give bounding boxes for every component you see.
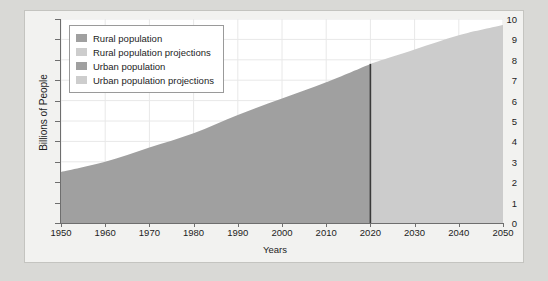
x-tick-label: 2010	[301, 227, 351, 238]
legend-item: Urban population projections	[76, 73, 214, 87]
legend-swatch-icon	[76, 48, 87, 56]
y-tick-mark	[55, 101, 60, 102]
x-tick-label: 2050	[478, 227, 528, 238]
legend-swatch-icon	[76, 76, 87, 84]
legend-item: Rural population	[76, 31, 214, 45]
legend-label: Urban population projections	[93, 75, 214, 86]
legend-item: Urban population	[76, 59, 214, 73]
x-axis-title: Years	[25, 244, 525, 255]
x-tick-label: 2000	[257, 227, 307, 238]
legend-label: Urban population	[93, 61, 165, 72]
x-tick-label: 1980	[169, 227, 219, 238]
area-series	[370, 25, 503, 223]
x-tick-mark	[194, 223, 195, 227]
legend-label: Rural population projections	[93, 47, 211, 58]
y-tick-mark	[55, 223, 60, 224]
x-tick-label: 2040	[434, 227, 484, 238]
y-tick-mark	[55, 141, 60, 142]
x-tick-mark	[105, 223, 106, 227]
y-tick-mark	[55, 19, 60, 20]
x-tick-mark	[503, 223, 504, 227]
y-tick-mark	[55, 182, 60, 183]
x-tick-mark	[282, 223, 283, 227]
chart-figure: Billions of People Years 012345678910 19…	[24, 10, 524, 263]
x-tick-mark	[149, 223, 150, 227]
y-tick-mark	[55, 39, 60, 40]
x-tick-label: 1990	[213, 227, 263, 238]
y-tick-mark	[55, 162, 60, 163]
x-tick-label: 1970	[124, 227, 174, 238]
x-tick-mark	[326, 223, 327, 227]
legend-item: Rural population projections	[76, 45, 214, 59]
x-tick-mark	[238, 223, 239, 227]
x-tick-label: 1950	[36, 227, 86, 238]
x-tick-mark	[370, 223, 371, 227]
y-tick-mark	[55, 60, 60, 61]
legend-swatch-icon	[76, 34, 87, 42]
x-tick-mark	[61, 223, 62, 227]
x-tick-mark	[459, 223, 460, 227]
y-tick-mark	[55, 121, 60, 122]
y-tick-mark	[55, 203, 60, 204]
y-axis-title: Billions of People	[38, 33, 49, 193]
legend-label: Rural population	[93, 33, 162, 44]
legend-swatch-icon	[76, 62, 87, 70]
x-tick-label: 2030	[390, 227, 440, 238]
x-tick-label: 1960	[80, 227, 130, 238]
x-tick-mark	[415, 223, 416, 227]
x-tick-label: 2020	[345, 227, 395, 238]
chart-legend: Rural populationRural population project…	[69, 25, 224, 93]
y-tick-mark	[55, 80, 60, 81]
